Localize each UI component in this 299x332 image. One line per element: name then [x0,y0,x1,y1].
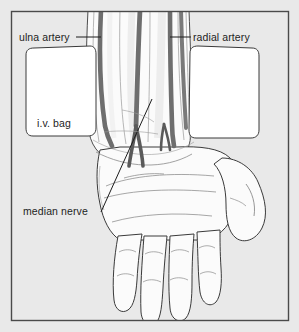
ring-finger [169,234,194,321]
anatomy-illustration [0,0,299,332]
label-ulna-artery: ulna artery [19,32,70,43]
anatomy-figure: ulna artery radial artery i.v. bag media… [0,0,299,332]
label-radial-artery: radial artery [193,32,250,43]
label-iv-bag: i.v. bag [37,118,71,129]
little-finger [197,230,221,305]
label-median-nerve: median nerve [23,206,88,217]
iv-bag-right [189,46,259,138]
